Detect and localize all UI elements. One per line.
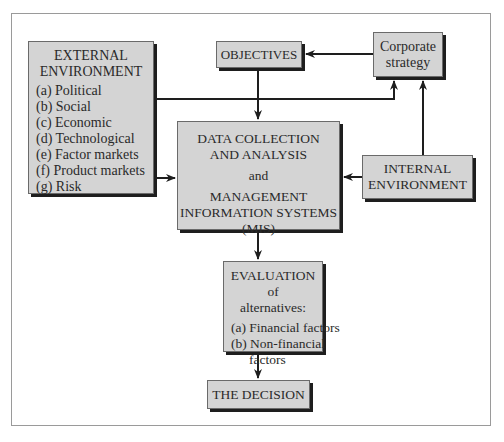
data-collection-line-2: AND ANALYSIS xyxy=(178,147,339,163)
internal-environment-box: INTERNAL ENVIRONMENT xyxy=(362,155,473,199)
evaluation-title-1: EVALUATION of xyxy=(224,268,322,300)
evaluation-title-2: alternatives: xyxy=(224,300,322,316)
external-item-product-markets: (f) Product markets xyxy=(36,163,153,179)
corporate-strategy-box: Corporate strategy xyxy=(373,32,443,77)
decision-box: THE DECISION xyxy=(207,380,310,409)
internal-environment-line-1: INTERNAL xyxy=(363,161,472,177)
objectives-box: OBJECTIVES xyxy=(216,41,302,68)
corporate-strategy-line-2: strategy xyxy=(374,55,442,71)
data-collection-line-5: INFORMATION SYSTEMS xyxy=(178,205,339,221)
objectives-label: OBJECTIVES xyxy=(221,47,298,62)
evaluation-box: EVALUATION of alternatives: (a) Financia… xyxy=(223,261,323,352)
data-collection-line-6: (MIS) xyxy=(178,221,339,237)
external-environment-title-1: EXTERNAL xyxy=(29,48,153,64)
evaluation-item-non-financial: (b) Non-financial xyxy=(231,336,322,352)
external-item-economic: (c) Economic xyxy=(36,115,153,131)
data-collection-box: DATA COLLECTION AND ANALYSIS and MANAGEM… xyxy=(177,121,340,230)
external-environment-title-2: ENVIRONMENT xyxy=(29,64,153,80)
data-collection-line-1: DATA COLLECTION xyxy=(178,131,339,147)
corporate-strategy-line-1: Corporate xyxy=(374,39,442,55)
external-environment-box: EXTERNAL ENVIRONMENT (a) Political (b) S… xyxy=(28,41,154,194)
external-item-risk: (g) Risk xyxy=(36,179,153,195)
external-item-social: (b) Social xyxy=(36,99,153,115)
evaluation-item-non-financial-cont: factors xyxy=(231,352,322,368)
data-collection-line-4: MANAGEMENT xyxy=(178,189,339,205)
arrow-external-to-strategy xyxy=(156,81,394,99)
external-item-political: (a) Political xyxy=(36,83,153,99)
external-item-technological: (d) Technological xyxy=(36,131,153,147)
data-collection-and: and xyxy=(178,168,339,184)
decision-label: THE DECISION xyxy=(212,387,305,402)
external-item-factor-markets: (e) Factor markets xyxy=(36,147,153,163)
evaluation-item-financial: (a) Financial factors xyxy=(231,320,322,336)
internal-environment-line-2: ENVIRONMENT xyxy=(363,177,472,193)
